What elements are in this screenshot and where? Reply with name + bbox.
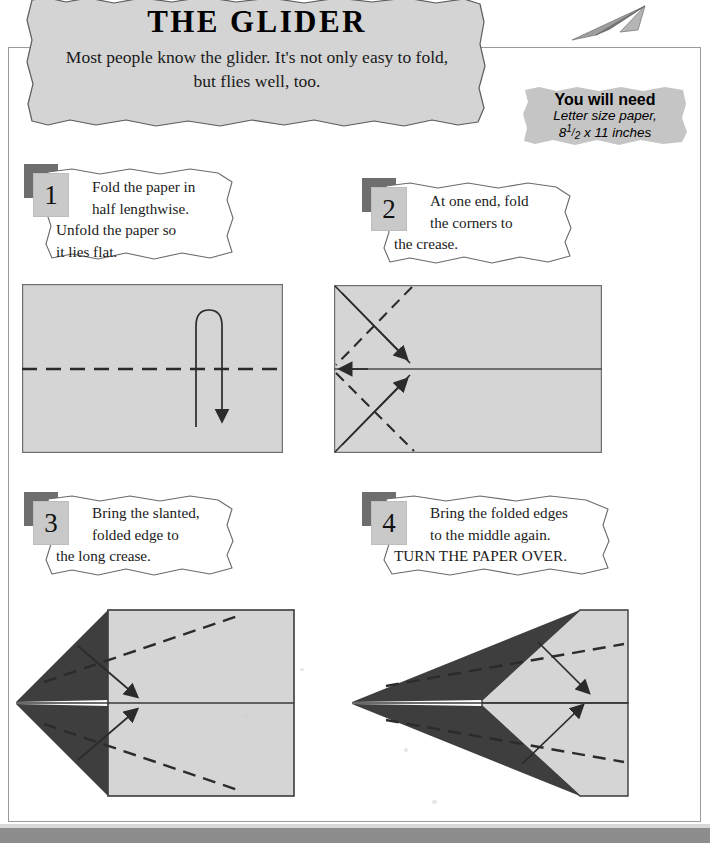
fraction-denominator: 2 bbox=[575, 130, 581, 141]
materials-heading: You will need bbox=[554, 91, 655, 109]
step-3-line-3: the long crease. bbox=[56, 545, 221, 567]
step-4-text: Bring the folded edges to the middle aga… bbox=[394, 502, 599, 567]
step-1-text: Fold the paper in half lengthwise. Unfol… bbox=[56, 176, 216, 262]
materials-size-fraction: 1/2 bbox=[566, 124, 580, 141]
fraction-numerator: 1 bbox=[566, 123, 572, 134]
materials-box: You will need Letter size paper, 81/2 x … bbox=[521, 84, 689, 147]
step-4-line-2: to the middle again. bbox=[430, 524, 599, 546]
step-4-line-3: TURN THE PAPER OVER. bbox=[394, 545, 599, 567]
step-2-line-3: the crease. bbox=[394, 233, 554, 255]
glider-instruction-page: THE GLIDER Most people know the glider. … bbox=[0, 0, 710, 843]
step-2-line-2: the corners to bbox=[430, 212, 554, 234]
diagram-step-3 bbox=[8, 604, 308, 802]
page-speckle bbox=[300, 668, 304, 671]
step-3-callout: 3 Bring the slanted, folded edge to the … bbox=[24, 492, 224, 582]
step-1-line-1: Fold the paper in bbox=[92, 176, 216, 198]
paper-airplane-icon bbox=[550, 2, 650, 44]
step-1-line-4: it lies flat. bbox=[56, 241, 216, 263]
page-speckle bbox=[432, 800, 437, 804]
page-title: THE GLIDER bbox=[147, 4, 367, 40]
materials-size-whole: 8 bbox=[559, 125, 567, 140]
diagram-step-1 bbox=[22, 284, 283, 453]
step-2-line-1: At one end, fold bbox=[430, 190, 554, 212]
header-banner: THE GLIDER Most people know the glider. … bbox=[22, 0, 492, 137]
page-speckle bbox=[404, 748, 408, 752]
step-4-callout: 4 Bring the folded edges to the middle a… bbox=[362, 492, 600, 582]
step-1-line-3: Unfold the paper so bbox=[56, 219, 216, 241]
diagram-step-4 bbox=[342, 604, 642, 802]
page-speckle bbox=[243, 714, 248, 718]
step-2-text: At one end, fold the corners to the crea… bbox=[394, 190, 554, 255]
materials-line-2: 81/2 x 11 inches bbox=[559, 125, 651, 142]
step-2-callout: 2 At one end, fold the corners to the cr… bbox=[362, 178, 562, 270]
step-1-line-2: half lengthwise. bbox=[92, 198, 216, 220]
step-4-line-1: Bring the folded edges bbox=[430, 502, 599, 524]
page-subtitle: Most people know the glider. It's not on… bbox=[57, 46, 457, 93]
step-3-line-2: folded edge to bbox=[92, 524, 221, 546]
materials-size-rest: x 11 inches bbox=[580, 125, 651, 140]
step-3-text: Bring the slanted, folded edge to the lo… bbox=[56, 502, 221, 567]
step-1-callout: 1 Fold the paper in half lengthwise. Unf… bbox=[24, 164, 224, 269]
page-bottom-band bbox=[0, 828, 710, 843]
diagram-step-2 bbox=[334, 285, 602, 453]
step-3-line-1: Bring the slanted, bbox=[92, 502, 221, 524]
